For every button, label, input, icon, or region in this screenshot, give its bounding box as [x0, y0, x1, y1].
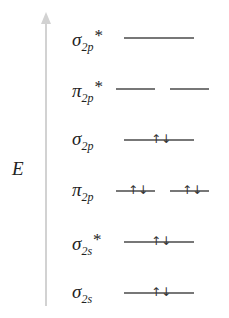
- spin-pair-icon: ↑↓: [151, 286, 171, 298]
- orbital-subscript: 2p: [81, 40, 93, 54]
- level-label-pi-2p: π2p: [72, 180, 94, 203]
- antibonding-star: *: [95, 77, 104, 96]
- orbital-symbol: σ: [72, 281, 81, 302]
- level-label-sigma-2p-star: σ2p*: [72, 27, 103, 53]
- spin-pair-icon: ↑↓: [182, 184, 202, 196]
- orbital-line-pi-2p-star-2: [170, 88, 209, 90]
- level-label-sigma-2p: σ2p: [72, 129, 93, 152]
- antibonding-star: *: [93, 230, 102, 249]
- level-label-sigma-2s: σ2s: [72, 282, 92, 305]
- orbital-subscript: 2p: [82, 190, 94, 204]
- orbital-symbol: σ: [72, 128, 81, 149]
- spin-pair-icon: ↑↓: [151, 235, 171, 247]
- orbital-subscript: 2p: [82, 91, 94, 105]
- orbital-line-pi-2p-star-1: [116, 88, 155, 90]
- orbital-line-sigma-2p-star: [124, 37, 194, 39]
- energy-axis-line: [45, 22, 47, 306]
- spin-pair-icon: ↑↓: [128, 184, 148, 196]
- orbital-symbol: π: [72, 80, 82, 101]
- level-label-sigma-2s-star: σ2s*: [72, 231, 102, 257]
- orbital-symbol: σ: [72, 233, 81, 254]
- orbital-subscript: 2s: [81, 292, 92, 306]
- level-label-pi-2p-star: π2p*: [72, 78, 103, 104]
- orbital-symbol: σ: [72, 29, 81, 50]
- energy-axis-label: E: [12, 158, 24, 180]
- orbital-subscript: 2s: [81, 244, 92, 258]
- orbital-subscript: 2p: [81, 139, 93, 153]
- spin-pair-icon: ↑↓: [151, 133, 171, 145]
- orbital-symbol: π: [72, 179, 82, 200]
- antibonding-star: *: [94, 26, 103, 45]
